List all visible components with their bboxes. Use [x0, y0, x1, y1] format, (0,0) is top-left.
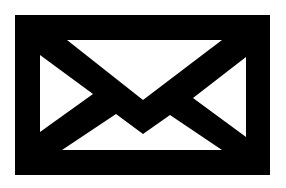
icon-canvas: Mail: [0, 0, 286, 188]
envelope-icon: [0, 0, 286, 188]
